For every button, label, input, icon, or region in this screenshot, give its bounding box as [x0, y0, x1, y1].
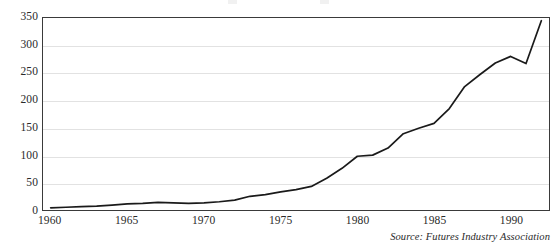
plot-area: [42, 17, 550, 211]
source-note: Source: Futures Industry Association: [390, 231, 550, 242]
cropped-title-remnant: [0, 0, 559, 5]
chart-figure: 050100150200250300350 196019651970197519…: [0, 0, 559, 248]
y-tick-label-50: 50: [26, 178, 38, 190]
y-tick-label-300: 300: [20, 39, 38, 51]
y-axis-tick-labels: 050100150200250300350: [0, 17, 38, 211]
x-tick-label-1975: 1975: [269, 214, 292, 227]
x-tick-label-1985: 1985: [423, 214, 446, 227]
data-line-series: [43, 18, 549, 210]
y-tick-label-150: 150: [20, 122, 38, 134]
x-tick-label-1970: 1970: [192, 214, 215, 227]
y-tick-label-350: 350: [20, 11, 38, 23]
x-tick-label-1960: 1960: [38, 214, 61, 227]
y-tick-label-200: 200: [20, 94, 38, 106]
title-remnant-mark-1: [320, 0, 329, 4]
y-tick-label-100: 100: [20, 150, 38, 162]
x-tick-label-1980: 1980: [346, 214, 369, 227]
x-tick-label-1990: 1990: [500, 214, 523, 227]
series-polyline: [51, 21, 542, 208]
y-tick-label-250: 250: [20, 67, 38, 79]
title-remnant-mark-0: [228, 0, 237, 4]
x-tick-label-1965: 1965: [115, 214, 138, 227]
x-axis-tick-labels: 1960196519701975198019851990: [0, 214, 559, 230]
